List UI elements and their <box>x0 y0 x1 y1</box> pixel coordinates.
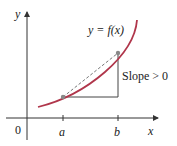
slope-label: Slope > 0 <box>122 69 168 83</box>
point-a <box>61 95 65 99</box>
y-axis-label: y <box>14 7 21 21</box>
point-b <box>116 51 120 55</box>
point-a-label: a <box>59 125 65 139</box>
point-b-label: b <box>114 125 120 139</box>
origin-label: 0 <box>15 123 21 137</box>
curve-label: y = f(x) <box>87 23 124 37</box>
secant-slope-diagram: y x 0 a b y = f(x) Slope > 0 <box>0 0 177 146</box>
secant-line <box>63 53 118 97</box>
x-axis-label: x <box>147 124 154 138</box>
